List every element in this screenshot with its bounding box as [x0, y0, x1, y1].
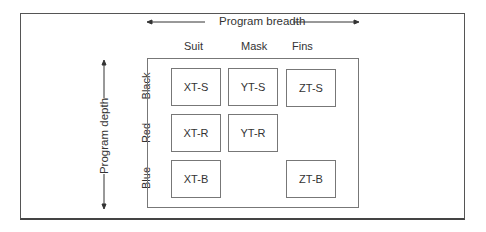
cell-red-suit: XT-R	[171, 114, 221, 152]
arrow-up-icon	[102, 60, 106, 65]
cell-black-mask: YT-S	[228, 68, 278, 106]
cell-black-fins: ZT-S	[286, 69, 336, 107]
cell-red-mask: YT-R	[228, 114, 278, 152]
horizontal-axis-title: Program breadth	[219, 15, 305, 27]
column-label-fins: Fins	[292, 40, 313, 52]
arrow-left-icon	[147, 20, 152, 24]
cell-blue-suit: XT-B	[171, 160, 221, 198]
cell-black-suit: XT-S	[171, 68, 221, 106]
vertical-axis-title: Program depth	[98, 94, 110, 178]
column-label-mask: Mask	[241, 40, 267, 52]
arrow-right-icon	[354, 20, 359, 24]
arrow-down-icon	[102, 204, 106, 209]
cell-blue-fins: ZT-B	[286, 160, 336, 198]
column-label-suit: Suit	[184, 40, 203, 52]
